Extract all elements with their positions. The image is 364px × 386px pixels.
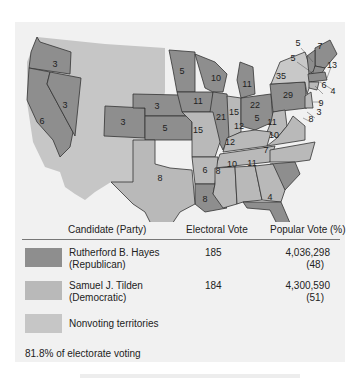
label-nevada: 3 [62,100,67,110]
label-florida: 4 [267,192,272,202]
electoral-vote-value: 185 [205,247,222,259]
label-indiana: 15 [229,107,239,117]
label-texas: 8 [157,173,162,183]
label-kansas: 5 [162,123,167,133]
label-michigan: 11 [242,79,251,89]
label-ohio: 22 [250,100,260,110]
label-colorado: 3 [120,117,125,127]
label-mississippi: 8 [215,166,220,176]
popular-vote-value: 4,300,590 (51) [270,280,330,304]
label-missouri: 15 [193,125,203,135]
label-illinois: 21 [216,112,226,122]
header-electoral-vote: Electoral Vote [186,224,248,235]
label-connecticut: 6 [321,80,326,90]
swatch-nonvoting [25,314,62,333]
candidate-name: Rutherford B. Hayes [69,247,160,259]
label-vermont: 5 [290,53,295,63]
label-oregon: 3 [52,59,57,69]
label-south-carolina: 7 [263,145,268,155]
label-new-hampshire: 5 [295,38,300,48]
label-iowa: 11 [193,96,202,106]
label-new-york: 35 [276,71,286,81]
electoral-vote-value: 184 [205,280,222,292]
label-maine: 7 [317,41,322,51]
label-alabama: 10 [227,159,237,169]
election-map: 3 6 3 3 3 5 8 5 11 15 6 8 10 21 11 15 22… [15,22,345,222]
label-minnesota: 5 [179,66,184,76]
label-maryland: 8 [308,114,313,124]
candidate-name: Samuel J. Tilden [69,280,143,292]
label-georgia: 11 [247,158,256,168]
label-arkansas: 6 [202,165,207,175]
label-delaware: 3 [316,107,321,117]
nonvoting-label: Nonvoting territories [69,318,158,330]
label-louisiana: 8 [202,194,207,204]
label-tennessee: 12 [225,137,235,147]
swatch-democratic [25,281,62,300]
label-west-virginia: 5 [254,113,259,123]
label-california: 6 [39,116,44,126]
label-rhode-island: 4 [330,86,335,96]
legend-divider [22,239,340,240]
header-candidate: Candidate (Party) [68,224,146,235]
label-massachusetts: 13 [327,60,337,70]
bleed-through-text [80,374,300,378]
label-wisconsin: 10 [211,73,221,83]
label-virginia: 11 [267,117,276,127]
hayes-row: Rutherford B. Hayes (Republican) [69,247,160,271]
label-north-carolina: 10 [269,130,279,140]
popular-vote-value: 4,036,298 (48) [270,247,330,271]
candidate-party: (Democratic) [69,292,143,304]
swatch-republican [25,248,62,267]
turnout-note: 81.8% of electorate voting [25,348,141,359]
label-kentucky: 12 [234,121,244,131]
label-pennsylvania: 29 [283,90,293,100]
label-nebraska: 3 [154,101,159,111]
header-popular-vote: Popular Vote (%) [270,224,346,235]
tilden-row: Samuel J. Tilden (Democratic) [69,280,143,304]
candidate-party: (Republican) [69,259,160,271]
